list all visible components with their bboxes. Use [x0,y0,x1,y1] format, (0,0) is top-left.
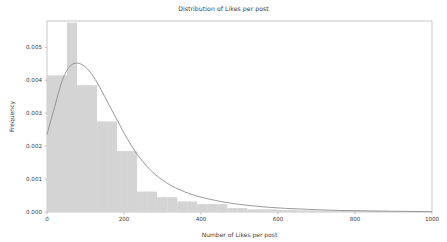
histogram-bar [277,210,287,212]
histogram-bar [67,23,77,212]
histogram-bar [147,192,157,212]
histogram-bar [197,204,207,212]
y-axis-tick-label: 0.002 [26,143,42,149]
x-axis-tick-label: 400 [196,216,207,222]
histogram-bar [317,211,327,212]
histogram-bar [237,208,247,212]
histogram-bar [327,211,337,212]
x-axis-ticks: 02004006008001000 [45,212,439,222]
histogram-bar [57,75,67,212]
histogram-bar [157,197,167,212]
histogram-bar [127,151,137,212]
histogram-bar [217,204,227,212]
x-axis-tick-label: 800 [350,216,361,222]
chart-figure: Distribution of Likes per post 020040060… [0,0,447,242]
histogram-bar [97,121,107,212]
histogram-bar [287,210,297,212]
histogram-bar [137,192,147,212]
histogram-bar [207,204,217,212]
y-axis-title: Frequency [8,101,16,132]
histogram-bar [177,201,187,212]
histogram-bar [87,85,97,212]
histogram-bar [227,208,237,212]
x-axis-tick-label: 600 [273,216,284,222]
histogram-bar [77,85,87,212]
histogram-bar [297,210,307,212]
y-axis-tick-label: 0.003 [26,110,42,116]
y-axis-tick-label: 0.004 [26,77,42,83]
y-axis-tick-label: 0.000 [26,209,42,215]
y-axis-ticks: 0.0000.0010.0020.0030.0040.005 [26,44,47,215]
x-axis-tick-label: 0 [45,216,49,222]
histogram-bar [47,75,57,212]
x-axis-tick-label: 200 [119,216,130,222]
histogram-bar [167,197,177,212]
x-axis-title: Number of Likes per post [202,231,278,239]
histogram-bar [307,210,317,212]
histogram-bar [107,121,117,212]
histogram-bar [247,209,257,212]
histogram-bar [257,209,267,212]
histogram-bar [187,201,197,212]
plot-area: 02004006008001000 0.0000.0010.0020.0030.… [0,0,447,242]
histogram-bar [267,209,277,212]
y-axis-tick-label: 0.005 [26,44,42,50]
histogram-bar [117,151,127,212]
y-axis-tick-label: 0.001 [26,176,42,182]
x-axis-tick-label: 1000 [425,216,440,222]
